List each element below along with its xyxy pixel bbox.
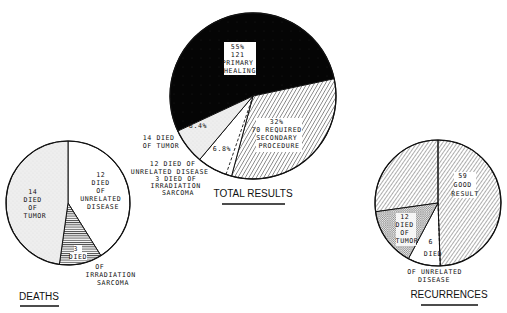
- rec-unrelated-outer-2: DISEASE: [418, 276, 450, 284]
- left-label-tumor-1: 14 DIED: [143, 134, 175, 142]
- rec-unrelated-outer-label: OF UNRELATED DISEASE: [407, 268, 466, 284]
- rec-tumor-text-1: DIED: [396, 221, 414, 229]
- deaths-unrelated-text-4: DISEASE: [87, 203, 119, 211]
- left-label-tumor-2: OF TUMOR: [143, 142, 180, 150]
- rec-unrelated-count: 6: [428, 238, 433, 246]
- left-label-tumor: 14 DIED OF TUMOR: [143, 134, 180, 150]
- primary-text-1: PRIMARY: [222, 59, 254, 67]
- deaths-tumor-text-2: OF: [28, 204, 37, 212]
- primary-pct: 55%: [231, 43, 245, 51]
- recurrences-pie: 59 GOOD RESULT 12 DIED OF TUMOR 6 DIED O…: [375, 140, 501, 305]
- deaths-unrelated-text-1: DIED: [92, 179, 110, 187]
- pct-died-tumor: 6.4%: [189, 122, 207, 130]
- left-label-unrelated: 12 DIED OF UNRELATED DISEASE 3 DIED OF I…: [131, 160, 213, 197]
- rec-good-count: 59: [458, 172, 467, 180]
- rec-good-text-2: RESULT: [451, 190, 478, 198]
- deaths-sarcoma-outer-label: OF IRRADIATION SARCOMA: [86, 263, 141, 287]
- deaths-sarcoma-outer-1: OF: [95, 263, 104, 271]
- deaths-unrelated-text-2: OF: [96, 187, 105, 195]
- deaths-unrelated-text-3: UNRELATED: [80, 195, 121, 203]
- primary-count: 121: [231, 51, 245, 59]
- total-results-pie: 55% 121 PRIMARY HEALING 32% 70 REQUIRED …: [131, 13, 336, 204]
- pie-charts-figure: 55% 121 PRIMARY HEALING 32% 70 REQUIRED …: [0, 0, 507, 313]
- recurrences-title: RECURRENCES: [410, 289, 488, 300]
- pct-died-unrelated: 6.8%: [213, 145, 231, 153]
- primary-text-2: HEALING: [224, 67, 256, 75]
- secondary-text-3: PROCEDURE: [258, 142, 299, 150]
- rec-good-text-1: GOOD: [454, 181, 472, 189]
- rec-tumor-count: 12: [400, 213, 409, 221]
- left-label-unrelated-1: 12 DIED OF: [150, 160, 196, 168]
- secondary-text-1: 70 REQUIRED: [252, 126, 302, 134]
- deaths-pie: 12 DIED OF UNRELATED DISEASE 14 DIED OF …: [6, 141, 140, 306]
- secondary-text-2: SECONDARY: [256, 134, 297, 142]
- deaths-tumor-text-1: DIED: [24, 196, 42, 204]
- deaths-sarcoma-outer-2: IRRADIATION: [86, 271, 136, 279]
- total-results-title: TOTAL RESULTS: [213, 188, 292, 199]
- deaths-sarcoma-outer-3: SARCOMA: [97, 279, 129, 287]
- deaths-tumor-count: 14: [28, 188, 37, 196]
- deaths-title: DEATHS: [19, 291, 59, 302]
- rec-unrelated-text: DIED: [424, 250, 442, 258]
- rec-unrelated-outer-1: OF UNRELATED: [407, 268, 462, 276]
- rec-tumor-text-3: TUMOR: [396, 237, 419, 245]
- deaths-tumor-text-3: TUMOR: [24, 212, 47, 220]
- deaths-unrelated-count: 12: [96, 171, 105, 179]
- deaths-sarcoma-count: 3: [73, 245, 78, 253]
- secondary-pct: 32%: [270, 118, 284, 126]
- left-label-sarcoma-3: SARCOMA: [162, 189, 194, 197]
- rec-tumor-text-2: OF: [400, 229, 409, 237]
- deaths-sarcoma-text: DIED: [69, 253, 87, 261]
